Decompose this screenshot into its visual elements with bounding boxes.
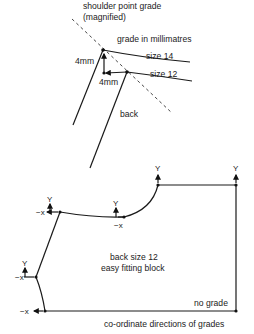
shoulder-y-label: Y — [47, 195, 53, 204]
horizontal-grade-label: 4mm — [99, 77, 118, 87]
lower-side-curve — [36, 277, 45, 311]
underarm-negx-label: −x — [15, 273, 24, 282]
grade-corner-point — [102, 71, 105, 74]
shoulder-point — [58, 210, 61, 213]
back-label: back — [120, 109, 139, 119]
inset-title-line1: shoulder point grade — [83, 1, 162, 11]
size-14-point — [101, 48, 105, 52]
side-waist-point — [43, 309, 46, 312]
vertical-grade-label: 4mm — [75, 56, 94, 66]
back-block: Y Y Y −x −x Y −x Y −x back size 12 easy … — [15, 164, 239, 329]
caption: co-ordinate directions of grades — [104, 319, 224, 329]
centre-back-neck-point — [234, 183, 237, 186]
neck-point — [156, 183, 159, 186]
inset-title-line2: (magnified) — [83, 12, 126, 22]
mid-shoulder-negx-label: −x — [114, 221, 123, 230]
centre-back-y-label: Y — [233, 164, 239, 173]
neck-y-label: Y — [155, 164, 161, 173]
neckline-curve — [124, 185, 158, 217]
no-grade-label: no grade — [194, 298, 228, 308]
size-12-label: size 12 — [150, 69, 177, 79]
inset-subtitle: grade in millimatres — [117, 34, 192, 44]
block-title-line1: back size 12 — [110, 252, 158, 262]
shoulder-negx-label: −x — [36, 208, 45, 217]
side-seam-line — [36, 212, 60, 277]
underarm-point — [34, 275, 37, 278]
size-14-label: size 14 — [146, 51, 173, 61]
block-title-line2: easy fitting block — [101, 263, 165, 273]
size-12-point — [125, 70, 129, 74]
horizontal-grade-arrow — [106, 72, 127, 73]
pattern-diagram: shoulder point grade (magnified) grade i… — [0, 0, 254, 334]
side-waist-negx-label: −x — [20, 307, 29, 316]
shoulder-seam-curve — [60, 212, 124, 217]
underarm-y-label: Y — [22, 259, 28, 268]
shoulder-grade-inset: shoulder point grade (magnified) grade i… — [72, 1, 192, 168]
centre-back-waist-point — [234, 309, 237, 312]
mid-shoulder-y-label: Y — [113, 199, 119, 208]
